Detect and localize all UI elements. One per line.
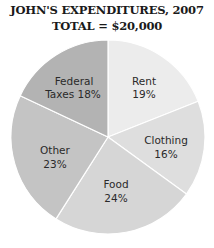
pie-chart: Rent 19% Clothing 16% Food 24% Other 23%…: [0, 0, 214, 248]
svg-text:19%: 19%: [132, 88, 155, 100]
svg-text:Taxes 18%: Taxes 18%: [44, 88, 101, 100]
svg-text:Other: Other: [40, 144, 70, 156]
svg-text:Clothing: Clothing: [144, 134, 188, 146]
svg-text:23%: 23%: [43, 158, 66, 170]
svg-text:16%: 16%: [154, 148, 177, 160]
svg-text:24%: 24%: [104, 192, 127, 204]
svg-text:Rent: Rent: [132, 75, 156, 87]
svg-text:Food: Food: [103, 178, 128, 190]
svg-text:Federal: Federal: [55, 75, 94, 87]
slice-label-rent: Rent 19%: [132, 75, 156, 100]
